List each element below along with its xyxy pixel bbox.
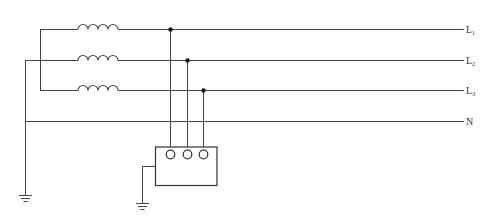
label-l2: L2 [466, 55, 475, 67]
winding-l2-icon [78, 56, 118, 61]
label-l3: L3 [466, 85, 475, 97]
enclosure-earth-wire [143, 167, 156, 204]
line-l3 [40, 86, 464, 91]
junction-dot-l1 [168, 27, 172, 31]
schematic-canvas: L1 L2 L3 N [0, 0, 487, 224]
label-n: N [466, 116, 473, 127]
line-l1 [40, 25, 464, 30]
terminal-l2-icon [183, 150, 192, 159]
terminal-l1-icon [166, 150, 175, 159]
line-l2 [25, 56, 464, 61]
enclosure-ground-icon [136, 204, 149, 210]
winding-l1-icon [78, 25, 118, 30]
terminal-l3-icon [199, 150, 208, 159]
winding-l3-icon [78, 86, 118, 91]
ground-icon [19, 196, 32, 202]
junction-dot-l3 [201, 88, 205, 92]
label-l1: L1 [466, 24, 475, 36]
junction-dot-l2 [185, 58, 189, 62]
